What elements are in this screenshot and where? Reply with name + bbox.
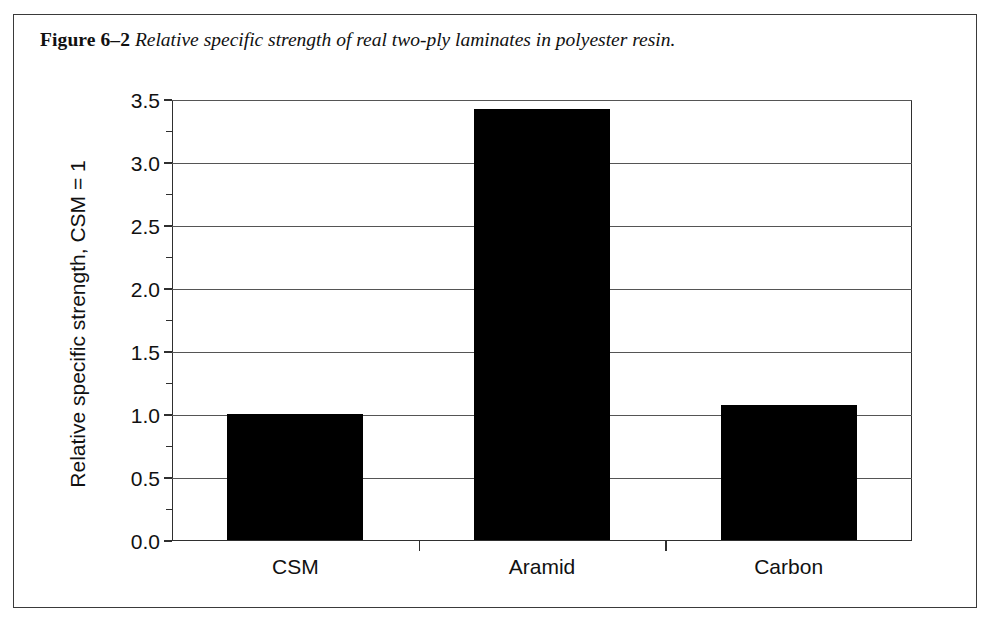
x-axis-label-aramid: Aramid	[452, 556, 632, 577]
y-axis-tick-minor	[166, 446, 172, 447]
y-axis-tick-minor	[166, 320, 172, 321]
x-axis-tick	[419, 540, 420, 551]
y-axis-tick-label: 2.5	[90, 216, 160, 237]
y-axis-tick-major	[164, 225, 172, 226]
gridline	[172, 100, 912, 101]
y-axis-tick-major	[164, 162, 172, 163]
y-axis-tick-label: 3.5	[90, 90, 160, 111]
y-axis-line	[172, 100, 173, 541]
y-axis-tick-minor	[166, 383, 172, 384]
y-axis-tick-major	[164, 477, 172, 478]
figure-root: Figure 6–2 Relative specific strength of…	[0, 0, 994, 623]
y-axis-tick-major	[164, 99, 172, 100]
y-axis-tick-minor	[166, 257, 172, 258]
y-axis-tick-labels: 0.00.51.01.52.02.53.03.5	[90, 100, 160, 541]
y-axis-tick-major	[164, 414, 172, 415]
y-axis-tick-label: 1.0	[90, 405, 160, 426]
plot-right-border	[911, 100, 912, 541]
y-axis-tick-major	[164, 351, 172, 352]
bar-carbon	[721, 405, 857, 540]
y-axis-tick-label: 0.5	[90, 468, 160, 489]
y-axis-tick-label: 0.0	[90, 531, 160, 552]
y-axis-tick-label: 3.0	[90, 153, 160, 174]
y-axis-tick-major	[164, 540, 172, 541]
bar-csm	[227, 414, 363, 540]
x-axis-label-carbon: Carbon	[699, 556, 879, 577]
y-axis-tick-minor	[166, 194, 172, 195]
y-axis-tick-minor	[166, 509, 172, 510]
y-axis-tick-label: 2.0	[90, 279, 160, 300]
y-axis-tick-minor	[166, 131, 172, 132]
plot-area	[172, 100, 912, 541]
y-axis-tick-major	[164, 288, 172, 289]
x-axis-label-csm: CSM	[205, 556, 385, 577]
bar-chart: Relative specific strength, CSM = 1 0.00…	[0, 0, 994, 623]
x-axis-line	[172, 540, 912, 541]
x-axis-tick	[665, 540, 666, 551]
y-axis-tick-label: 1.5	[90, 342, 160, 363]
y-axis-title: Relative specific strength, CSM = 1	[66, 104, 90, 544]
bar-aramid	[474, 109, 610, 540]
